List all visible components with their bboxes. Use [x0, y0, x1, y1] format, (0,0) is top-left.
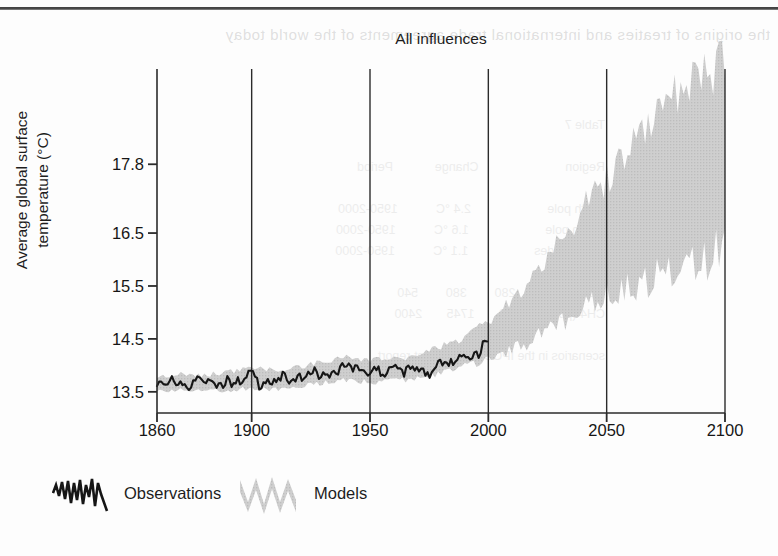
y-tick-label-2: 15.5	[90, 276, 144, 295]
chart-legend: Observations Models	[52, 470, 472, 516]
observations-line-icon	[52, 473, 110, 513]
plot-svg	[157, 69, 725, 413]
x-tick-label-1: 1900	[217, 421, 287, 440]
plot-area	[157, 69, 725, 413]
chart-title: All influences	[157, 30, 725, 48]
y-tick-label-4: 17.8	[90, 155, 144, 174]
models-band-icon	[238, 472, 300, 514]
x-tick-label-0: 1860	[122, 421, 192, 440]
y-axis-title: Average global surface temperature (°C)	[11, 40, 55, 340]
chart-figure: All influences Average global surface te…	[0, 0, 778, 556]
x-axis-tick-labels: 186019001950200020502100	[157, 421, 725, 445]
legend-label-models: Models	[314, 484, 367, 503]
y-axis-title-line1: Average global surface	[13, 111, 30, 269]
y-axis-title-line2: temperature (°C)	[34, 132, 51, 248]
x-tick-label-4: 2050	[572, 421, 642, 440]
y-tick-label-1: 14.5	[90, 329, 144, 348]
y-axis-tick-labels: 13.514.515.516.517.8	[90, 69, 144, 413]
legend-entry-models: Models	[238, 470, 367, 516]
y-tick-label-0: 13.5	[90, 382, 144, 401]
x-tick-label-2: 1950	[335, 421, 405, 440]
models-band	[157, 41, 725, 393]
x-tick-label-5: 2100	[690, 421, 760, 440]
y-tick-label-3: 16.5	[90, 224, 144, 243]
legend-entry-observations: Observations	[52, 470, 221, 516]
x-tick-label-3: 2000	[453, 421, 523, 440]
legend-label-observations: Observations	[124, 484, 221, 503]
